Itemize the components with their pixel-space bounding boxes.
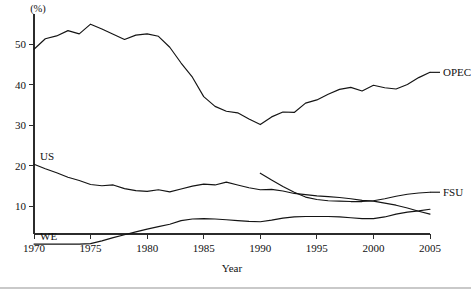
y-axis-unit-label: (%) [30,3,46,15]
x-tick-label: 2005 [419,242,442,254]
series-label-fsu: FSU [443,186,463,198]
y-tick-label: 10 [15,200,27,212]
series-label-opec: OPEC [443,66,471,78]
x-axis-title: Year [222,262,243,274]
x-tick-label: 1995 [306,242,329,254]
chart-canvas: 1020304050197019751980198519901995200020… [0,0,471,289]
x-tick-label: 2000 [362,242,385,254]
series-label-us: US [40,150,54,162]
y-tick-label: 50 [15,38,27,50]
x-tick-label: 1990 [249,242,272,254]
y-tick-label: 30 [15,119,27,131]
tick-marks-group: 1020304050197019751980198519901995200020… [15,38,442,254]
x-tick-label: 1985 [193,242,216,254]
labels-group: OPECFSUUSWE(%)Year [30,3,471,274]
series-paths-group [34,24,430,244]
series-line-we [34,209,430,244]
series-line-fsu [260,173,430,201]
line-chart-figure: 1020304050197019751980198519901995200020… [0,0,471,289]
series-label-we: WE [40,230,57,242]
y-tick-label: 20 [15,160,27,172]
y-tick-label: 40 [15,79,27,91]
series-line-opec [34,24,430,124]
x-tick-label: 1980 [136,242,159,254]
series-line-us [34,164,430,214]
